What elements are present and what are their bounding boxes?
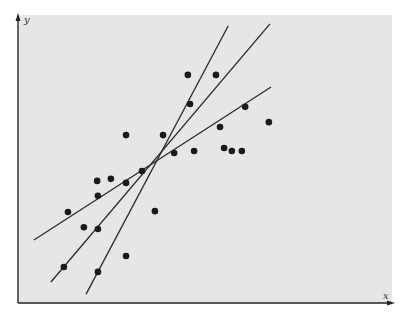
data-point (213, 72, 220, 79)
data-point (95, 269, 102, 276)
data-point (94, 178, 101, 185)
data-point (95, 226, 102, 233)
data-point (239, 148, 246, 155)
data-point (242, 104, 249, 111)
scatter-plot: y x (0, 0, 405, 317)
plot-background (19, 15, 392, 303)
data-point (160, 132, 167, 139)
data-point (266, 119, 273, 126)
data-point (123, 180, 130, 187)
data-point (123, 253, 130, 260)
data-point (221, 145, 228, 152)
data-point (108, 176, 115, 183)
data-point (152, 208, 159, 215)
data-point (191, 148, 198, 155)
data-point (139, 168, 146, 175)
data-point (185, 72, 192, 79)
data-point (217, 124, 224, 131)
data-point (95, 193, 102, 200)
data-point (171, 150, 178, 157)
data-point (123, 132, 130, 139)
data-point (229, 148, 236, 155)
data-point (61, 264, 68, 271)
y-axis-label: y (23, 14, 30, 25)
x-axis-label: x (383, 290, 389, 301)
data-point (65, 209, 72, 216)
data-point (187, 101, 194, 108)
data-point (81, 224, 88, 231)
